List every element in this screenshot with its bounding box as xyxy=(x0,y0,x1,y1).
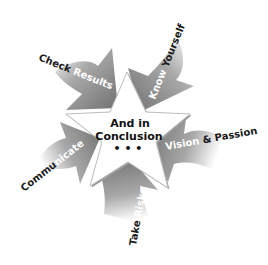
center-ellipsis: • • • xyxy=(114,142,143,155)
conclusion-star-diagram: And in Conclusion • • • Check Results Kn… xyxy=(0,0,268,265)
center-title-line1: And in xyxy=(110,117,150,130)
